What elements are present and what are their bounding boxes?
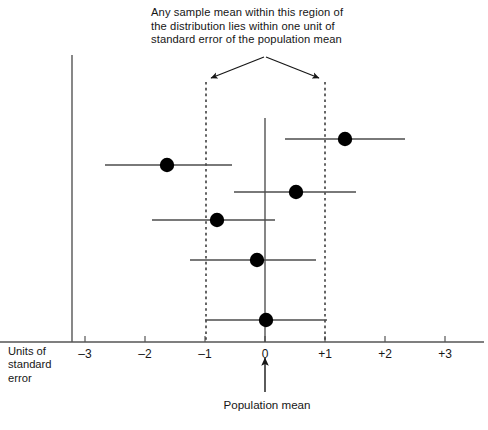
sample-mean-marker [289,185,303,199]
axis-caption: Units of standard error [8,345,70,385]
x-tick-label-plus-1: +1 [305,347,345,361]
axis-caption-line-3: error [8,372,70,385]
annotation-arrows [211,57,319,78]
statistics-diagram [0,0,488,430]
sample-mean-marker [259,313,273,327]
sample-mean-marker [210,213,224,227]
interval-row-6 [205,313,327,327]
population-mean-label: Population mean [197,398,337,411]
region-annotation: Any sample mean within this region of th… [151,6,363,47]
interval-row-5 [190,253,316,267]
x-tick-label-plus-2: +2 [365,347,405,361]
x-tick-label-minus-1: –1 [185,347,225,361]
annotation-arrow-left [211,57,264,78]
annotation-line-1: Any sample mean within this region of [151,6,363,20]
figure-canvas: Any sample mean within this region of th… [0,0,488,430]
annotation-line-2: the distribution lies within one unit of [151,20,363,34]
interval-row-3 [234,185,356,199]
x-tick-label-minus-3: –3 [65,347,105,361]
sample-mean-marker [160,158,174,172]
axis-caption-line-2: standard [8,358,70,371]
interval-row-1 [285,132,405,146]
annotation-arrow-right [266,57,319,78]
interval-row-4 [152,213,275,227]
sample-mean-marker [250,253,264,267]
x-tick-label-plus-3: +3 [425,347,465,361]
interval-row-2 [105,158,232,172]
sample-mean-marker [338,132,352,146]
x-tick-label-zero: 0 [245,347,285,361]
x-tick-label-minus-2: –2 [125,347,165,361]
axis-caption-line-1: Units of [8,345,70,358]
annotation-line-3: standard error of the population mean [151,33,363,47]
